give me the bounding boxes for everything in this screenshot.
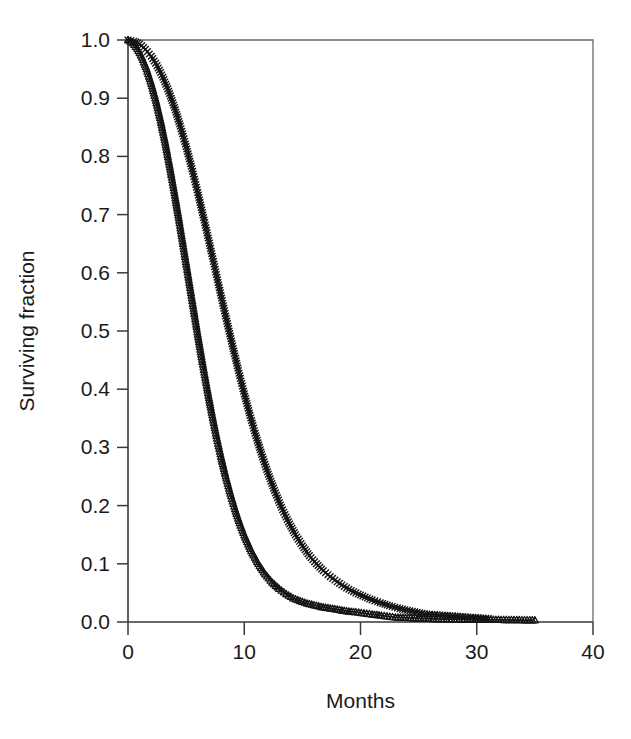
y-tick-label: 0.6 bbox=[81, 261, 110, 284]
x-tick-label: 40 bbox=[581, 640, 604, 663]
y-tick-label: 0.5 bbox=[81, 319, 110, 342]
data-series bbox=[125, 36, 539, 623]
plot-canvas: 0.00.10.20.30.40.50.60.70.80.91.00102030… bbox=[0, 0, 631, 739]
x-tick-label: 20 bbox=[349, 640, 372, 663]
series-triangle bbox=[125, 36, 539, 623]
axis-titles: MonthsSurviving fraction bbox=[15, 250, 395, 712]
series-line bbox=[128, 40, 535, 620]
y-tick-label: 0.9 bbox=[81, 86, 110, 109]
x-axis-title: Months bbox=[326, 689, 395, 712]
y-tick-label: 0.2 bbox=[81, 494, 110, 517]
y-tick-label: 0.4 bbox=[81, 377, 111, 400]
y-tick-label: 0.0 bbox=[81, 610, 110, 633]
y-tick-label: 0.3 bbox=[81, 435, 110, 458]
y-tick-label: 0.1 bbox=[81, 552, 110, 575]
y-tick-label: 1.0 bbox=[81, 28, 110, 51]
survival-curve-figure: 0.00.10.20.30.40.50.60.70.80.91.00102030… bbox=[0, 0, 631, 739]
y-axis-title: Surviving fraction bbox=[15, 250, 38, 411]
axis-ticks bbox=[117, 40, 593, 635]
x-tick-label: 30 bbox=[465, 640, 488, 663]
x-tick-label: 0 bbox=[122, 640, 134, 663]
series-cross bbox=[125, 37, 492, 622]
x-tick-label: 10 bbox=[233, 640, 256, 663]
y-tick-label: 0.7 bbox=[81, 203, 110, 226]
caption-sliver bbox=[8, 729, 338, 738]
y-tick-label: 0.8 bbox=[81, 144, 110, 167]
